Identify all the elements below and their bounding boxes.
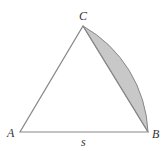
vertex-label-c: C xyxy=(79,9,88,23)
vertex-label-b: B xyxy=(152,127,160,141)
triangle-diagram: C A B s xyxy=(0,0,165,151)
side-label-s: s xyxy=(81,135,86,149)
vertex-label-a: A xyxy=(6,126,15,140)
